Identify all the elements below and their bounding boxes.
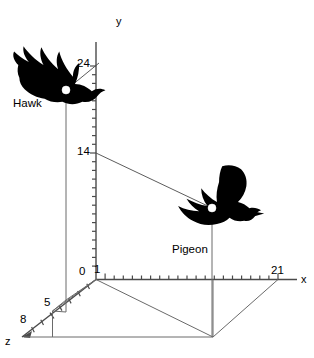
leader-lines [66,63,212,208]
pigeon-leader-line [96,153,212,208]
pigeon-label: Pigeon [172,244,208,255]
figure-canvas: y 24 14 0 1 21 x 5 8 z Hawk Pigeon [0,0,314,358]
y-axis-label: y [116,16,122,27]
pigeon-data-point [208,204,216,212]
x-tick-label-1: 1 [94,264,100,275]
pigeon-silhouette [178,165,264,225]
z-axis-label: z [5,336,11,347]
y-tick-label-14: 14 [77,146,90,157]
z-axis [22,280,96,339]
base-plane-lines [24,280,278,338]
y-tick-label-24: 24 [77,58,90,69]
x-axis-label: x [301,274,307,285]
x-axis [96,274,297,280]
origin-label: 0 [79,266,85,277]
y-axis [90,42,96,280]
z-tick-label-8: 8 [20,314,26,325]
hawk-data-point [62,86,70,94]
x-tick-label-21: 21 [271,265,284,276]
hawk-label: Hawk [13,98,42,109]
hawk-silhouette [13,46,105,104]
z-tick-label-5: 5 [44,297,50,308]
